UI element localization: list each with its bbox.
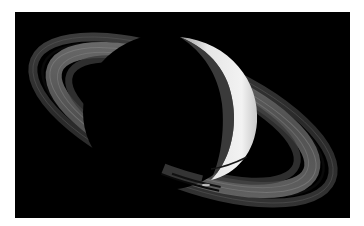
ring-glint	[202, 184, 210, 186]
page: Crescent Saturn with its ring system aga…	[0, 0, 364, 226]
saturn-photo	[15, 12, 350, 218]
saturn-illustration	[15, 12, 350, 218]
